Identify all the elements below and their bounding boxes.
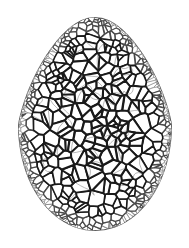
ovoid-polygonal-mosaic-illustration <box>0 0 189 248</box>
figure-root: Ovoid body with polygonal surface mosaic… <box>0 0 189 248</box>
